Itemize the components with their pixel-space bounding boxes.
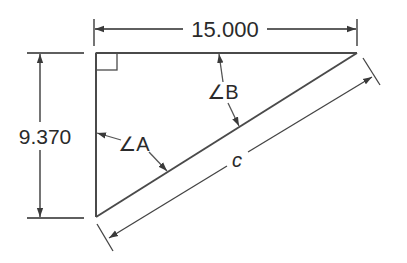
angle-b-arrow-to-hypotenuse (228, 103, 239, 126)
dimension-arrow-lower (109, 166, 227, 238)
angle-b-label: ∠B (207, 81, 238, 103)
horizontal-dimension-label: 15.000 (191, 17, 258, 42)
dimension-arrow-upper (248, 77, 372, 152)
triangle-diagram: 15.000 9.370 ∠A ∠B c (0, 0, 407, 263)
right-angle-marker (96, 53, 117, 70)
vertical-dimension-label: 9.370 (19, 125, 72, 148)
angle-a-arrow-to-hypotenuse (149, 152, 167, 171)
angle-a-label: ∠A (118, 133, 150, 155)
hypotenuse-label: c (232, 149, 242, 171)
angle-b-arrow-to-leg (219, 54, 223, 82)
